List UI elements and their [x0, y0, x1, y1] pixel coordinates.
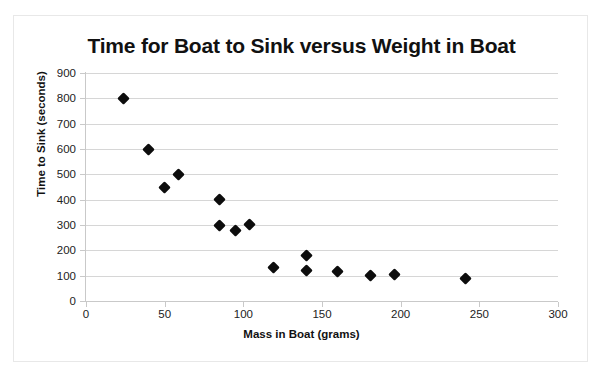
- y-tick-300: [80, 225, 85, 226]
- chart-title: Time for Boat to Sink versus Weight in B…: [14, 34, 589, 58]
- x-tick-100: [243, 302, 244, 307]
- data-point: [158, 181, 171, 194]
- x-tick-200: [401, 302, 402, 307]
- gridline-y-700: [86, 124, 558, 125]
- x-axis-title: Mass in Boat (grams): [14, 328, 589, 340]
- gridline-y-400: [86, 200, 558, 201]
- gridline-y-500: [86, 174, 558, 175]
- y-tick-900: [80, 73, 85, 74]
- x-tick-label-200: 200: [381, 308, 421, 320]
- y-tick-label-0: 0: [36, 295, 76, 307]
- data-point: [364, 269, 377, 282]
- data-point: [459, 273, 472, 286]
- data-point: [388, 268, 401, 281]
- data-point: [300, 264, 313, 277]
- y-tick-label-400: 400: [36, 194, 76, 206]
- gridline-y-600: [86, 149, 558, 150]
- y-tick-label-900: 900: [36, 67, 76, 79]
- gridline-y-300: [86, 225, 558, 226]
- data-point: [213, 193, 226, 206]
- x-tick-250: [479, 302, 480, 307]
- y-tick-label-200: 200: [36, 244, 76, 256]
- y-tick-800: [80, 98, 85, 99]
- y-tick-label-600: 600: [36, 143, 76, 155]
- data-point: [267, 261, 280, 274]
- gridline-y-100: [86, 276, 558, 277]
- data-point: [243, 218, 256, 231]
- chart-screenshot: Time for Boat to Sink versus Weight in B…: [0, 0, 603, 374]
- x-tick-150: [322, 302, 323, 307]
- x-tick-300: [558, 302, 559, 307]
- x-tick-label-100: 100: [223, 308, 263, 320]
- gridline-y-900: [86, 73, 558, 74]
- y-tick-700: [80, 124, 85, 125]
- data-point: [229, 224, 242, 237]
- x-tick-label-150: 150: [302, 308, 342, 320]
- x-tick-label-250: 250: [459, 308, 499, 320]
- y-tick-label-300: 300: [36, 219, 76, 231]
- x-tick-label-0: 0: [66, 308, 106, 320]
- x-tick-label-50: 50: [145, 308, 185, 320]
- y-tick-200: [80, 250, 85, 251]
- data-point: [143, 143, 156, 156]
- data-point: [117, 92, 130, 105]
- y-tick-500: [80, 174, 85, 175]
- y-tick-400: [80, 200, 85, 201]
- y-tick-label-500: 500: [36, 168, 76, 180]
- x-tick-label-300: 300: [538, 308, 578, 320]
- y-tick-label-800: 800: [36, 92, 76, 104]
- y-tick-100: [80, 276, 85, 277]
- gridline-y-800: [86, 98, 558, 99]
- y-tick-600: [80, 149, 85, 150]
- x-tick-50: [165, 302, 166, 307]
- gridline-y-200: [86, 250, 558, 251]
- plot-area: [86, 73, 558, 301]
- data-point: [172, 168, 185, 181]
- data-point: [213, 219, 226, 232]
- y-tick-label-100: 100: [36, 270, 76, 282]
- chart-frame: Time for Boat to Sink versus Weight in B…: [13, 15, 588, 362]
- y-tick-0: [80, 301, 85, 302]
- x-tick-0: [86, 302, 87, 307]
- y-tick-label-700: 700: [36, 118, 76, 130]
